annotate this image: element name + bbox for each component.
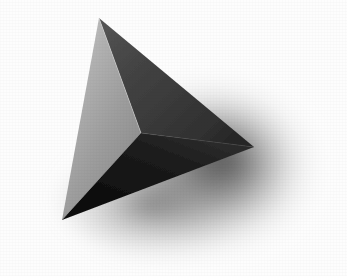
tetrahedron-illustration [0,0,347,276]
image-canvas [0,0,347,276]
